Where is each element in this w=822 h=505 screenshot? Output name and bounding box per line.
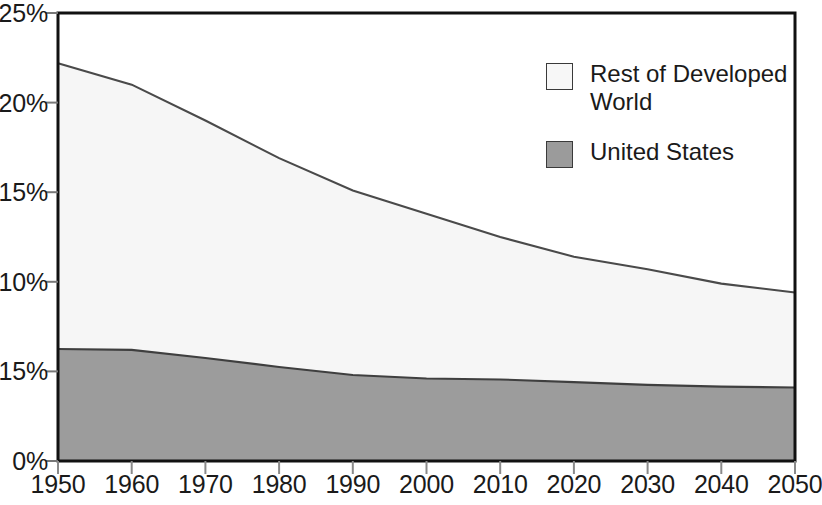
y-axis-ticks [46, 13, 58, 461]
legend-label-rest-of-developed-world: Rest of Developed World [590, 60, 795, 116]
legend-item-united-states: United States [546, 138, 796, 168]
y-axis-tick-label: 15% [0, 178, 48, 207]
y-axis-tick-label: 20% [0, 88, 48, 117]
x-axis-tick-label: 2040 [694, 470, 749, 499]
x-axis-tick-label: 2000 [399, 470, 454, 499]
legend-item-rest-of-developed-world: Rest of Developed World [546, 60, 796, 116]
united-states-swatch-icon [546, 141, 573, 168]
y-axis-tick-label: 15% [0, 357, 48, 386]
y-axis-tick-label: 10% [0, 267, 48, 296]
x-axis-tick-label: 1980 [252, 470, 307, 499]
rest-of-developed-world-swatch-icon [546, 63, 573, 90]
x-axis-tick-label: 1950 [31, 470, 86, 499]
x-axis-tick-label: 2050 [768, 470, 822, 499]
chart-legend: Rest of Developed World United States [546, 60, 796, 190]
y-axis-tick-label: 25% [0, 0, 48, 28]
x-axis-tick-label: 1990 [325, 470, 380, 499]
x-axis-tick-label: 1970 [178, 470, 233, 499]
legend-label-united-states: United States [590, 138, 734, 166]
x-axis-tick-label: 2030 [620, 470, 675, 499]
x-axis-tick-label: 1960 [104, 470, 159, 499]
x-axis-tick-label: 2010 [473, 470, 528, 499]
x-axis-tick-label: 2020 [546, 470, 601, 499]
